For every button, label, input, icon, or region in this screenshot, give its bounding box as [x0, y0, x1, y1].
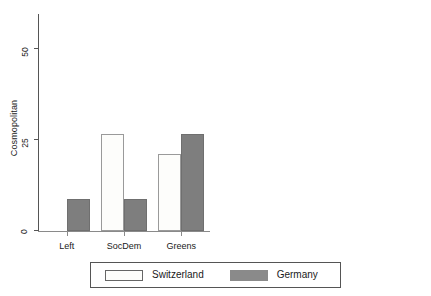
y-tick-label: 25: [21, 138, 30, 147]
x-axis-label-left-0: Left: [59, 242, 74, 251]
y-tick-mark: [34, 139, 38, 140]
y-tick-label: 0: [21, 229, 30, 234]
legend-label-switzerland: Switzerland: [152, 270, 204, 280]
y-tick-left-0: 0: [38, 230, 39, 231]
plot-area-left: 02550LeftSocDemGreens: [38, 14, 210, 232]
legend-item-germany: Germany: [230, 270, 318, 281]
y-axis-title-left: Cosmopolitan: [7, 0, 21, 256]
y-tick-mark: [34, 48, 38, 49]
bar-left-socdem-germany: [124, 199, 147, 231]
chart-figure: Cosmopolitan 02550LeftSocDemGreens Migra…: [0, 0, 431, 296]
legend-item-switzerland: Switzerland: [105, 270, 204, 281]
panel-cosmopolitan: Cosmopolitan 02550LeftSocDemGreens: [0, 0, 215, 256]
y-tick-left-50: 50: [38, 48, 39, 49]
y-tick-left-25: 25: [38, 139, 39, 140]
legend: Switzerland Germany: [90, 262, 341, 288]
x-tick-mark-left-0: [67, 232, 68, 236]
y-tick-label: 50: [21, 48, 30, 57]
legend-swatch-germany-icon: [230, 270, 268, 281]
bar-left-socdem-switzerland: [101, 134, 124, 231]
x-axis-label-left-1: SocDem: [107, 242, 142, 251]
legend-label-germany: Germany: [277, 270, 318, 280]
panel-migration-background: Migration background 02550LeftSocDemGree…: [216, 0, 431, 256]
y-tick-mark: [34, 230, 38, 231]
legend-swatch-switzerland-icon: [105, 270, 143, 281]
x-tick-mark-left-1: [124, 232, 125, 236]
bar-left-greens-germany: [181, 134, 204, 231]
y-axis-line-left: [38, 14, 39, 232]
x-axis-label-left-2: Greens: [167, 242, 197, 251]
bar-left-left-germany: [67, 199, 90, 231]
x-tick-mark-left-2: [181, 232, 182, 236]
bar-left-greens-switzerland: [158, 154, 181, 231]
